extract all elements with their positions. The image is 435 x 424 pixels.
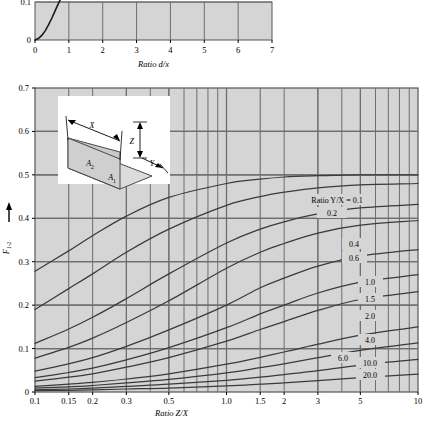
main-chart-xtick-label: 10 — [414, 396, 423, 406]
top-chart-xtick-label: 3 — [134, 45, 138, 55]
curve-label: 2.0 — [365, 312, 375, 321]
top-chart-xaxis-label: Ratio d/x — [137, 59, 169, 69]
main-chart-ytick-label: 0.6 — [18, 126, 29, 136]
main-chart-xtick-label: 2 — [282, 396, 286, 406]
top-chart-xtick-label: 5 — [202, 45, 206, 55]
main-chart-yaxis-title: F1-2 — [1, 241, 12, 255]
main-chart-yaxis-label: F1-2 — [1, 202, 12, 255]
inset-label-z: Z — [130, 137, 135, 146]
curve-label: 20.0 — [363, 371, 377, 380]
view-factor-chart: 0123456700.1Ratio d/xRatio Y/X = 0.10.20… — [0, 0, 435, 424]
main-chart-xtick-label: 0.5 — [164, 396, 175, 406]
top-chart-xtick-label: 1 — [67, 45, 71, 55]
main-chart-ytick-label: 0 — [25, 387, 29, 397]
main-chart-y-ticks: 00.10.20.30.40.50.60.7 — [18, 83, 35, 397]
top-chart-xtick-label: 4 — [168, 45, 173, 55]
top-chart-xtick-label: 6 — [236, 45, 240, 55]
main-chart-ytick-label: 0.3 — [18, 257, 29, 267]
main-chart-xtick-label: 1.0 — [221, 396, 232, 406]
curve-label: 0.4 — [349, 240, 359, 249]
main-chart-xtick-label: 0.1 — [30, 396, 41, 406]
curve-label: 1.5 — [365, 295, 375, 304]
main-chart-xaxis-label: Ratio Z/X — [154, 408, 189, 418]
main-chart-xtick-label: 1.5 — [255, 396, 266, 406]
curve-label: 1.0 — [365, 278, 375, 287]
yaxis-arrow-head — [6, 202, 12, 210]
curve-label: 10.0 — [363, 359, 377, 368]
main-chart-ytick-label: 0.1 — [18, 344, 29, 354]
figure-root: 0123456700.1Ratio d/xRatio Y/X = 0.10.20… — [0, 0, 435, 424]
curve-label: 6.0 — [338, 354, 348, 363]
main-chart-ytick-label: 0.5 — [18, 170, 29, 180]
top-chart: 0123456700.1Ratio d/x — [20, 0, 274, 69]
curve-label: 4.0 — [365, 336, 375, 345]
top-chart-ytick-label: 0.1 — [20, 0, 31, 7]
top-chart-x-ticks: 01234567 — [33, 40, 274, 55]
top-chart-plot-area — [35, 2, 272, 40]
main-chart-ytick-label: 0.7 — [18, 83, 29, 93]
inset-diagram: XZYA2A1 — [58, 96, 170, 189]
main-chart-ytick-label: 0.2 — [18, 300, 29, 310]
main-chart-ytick-label: 0.4 — [18, 213, 29, 223]
top-chart-xtick-label: 7 — [270, 45, 274, 55]
main-chart-xtick-label: 5 — [358, 396, 362, 406]
main-chart-xtick-label: 0.3 — [121, 396, 132, 406]
curve-label: Ratio Y/X = 0.1 — [311, 196, 362, 205]
main-chart-xtick-label: 3 — [316, 396, 320, 406]
curve-label: 0.2 — [327, 209, 337, 218]
main-chart-x-ticks: 0.10.150.20.30.51.01.523510 — [30, 392, 423, 406]
top-chart-xtick-label: 2 — [101, 45, 105, 55]
curve-label: 0.6 — [349, 254, 359, 263]
main-chart-xtick-label: 0.2 — [87, 396, 98, 406]
top-chart-xtick-label: 0 — [33, 45, 37, 55]
top-chart-ytick-label: 0 — [27, 35, 31, 45]
main-chart-xtick-label: 0.15 — [61, 396, 76, 406]
